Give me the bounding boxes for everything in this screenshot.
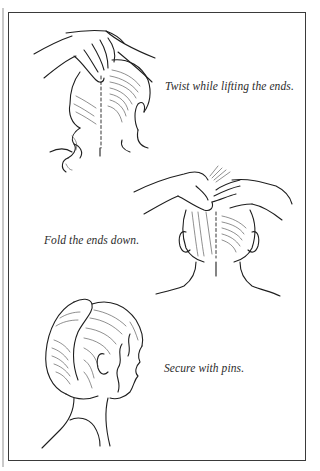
step-1-caption: Twist while lifting the ends. [165,80,294,92]
step-3-caption: Secure with pins. [164,362,244,374]
step-2-caption: Fold the ends down. [44,234,139,246]
